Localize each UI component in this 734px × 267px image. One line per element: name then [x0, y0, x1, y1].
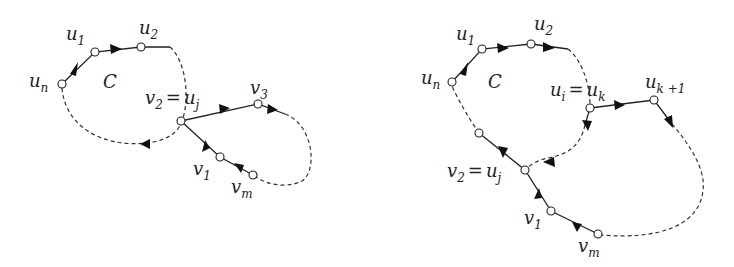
node-u1 — [91, 48, 99, 56]
label-v2-equals-uj: v2=uj — [145, 87, 200, 112]
node-v1 — [547, 207, 555, 215]
arrow-icon — [234, 163, 244, 173]
dashed-path-v3-vm — [256, 114, 311, 185]
dashed-path-un-v2 — [62, 88, 181, 144]
node-intermediate — [475, 129, 483, 137]
arrow-icon — [582, 120, 592, 131]
cycle-solid-path — [452, 44, 568, 82]
cycle-label: C — [103, 71, 117, 92]
arrow-icon — [110, 44, 122, 54]
node-un — [448, 78, 456, 86]
label-v1: v1 — [524, 207, 542, 232]
arrow-icon — [70, 62, 78, 76]
arrow-icon — [460, 62, 468, 76]
label-vm: vm — [578, 235, 600, 260]
diagram-canvas: C u1 u2 un v2=uj v3 v1 vm — [0, 0, 734, 267]
node-v2 — [521, 166, 529, 174]
node-uk1 — [650, 96, 658, 104]
label-u1: u1 — [66, 23, 85, 48]
arrow-icon — [140, 139, 150, 149]
node-v2 — [177, 117, 185, 125]
arrow-icon — [219, 104, 230, 114]
node-vm — [594, 230, 602, 238]
arrow-icon — [498, 146, 508, 158]
label-u2: u2 — [139, 17, 158, 42]
label-ui-equals-uk: ui=uk — [550, 79, 605, 104]
arrow-icon — [664, 115, 673, 128]
node-u2 — [527, 40, 535, 48]
dashed-path-node-un — [452, 86, 479, 133]
label-v3: v3 — [250, 77, 268, 102]
dashed-path-uk1-vm — [601, 124, 703, 236]
label-v1: v1 — [193, 158, 211, 183]
label-uk-plus-1: uk +1 — [645, 71, 685, 96]
node-v1 — [216, 153, 224, 161]
label-u1: u1 — [456, 23, 475, 48]
label-un: un — [421, 67, 440, 92]
arrow-icon — [497, 43, 509, 53]
node-u2 — [137, 43, 145, 51]
node-uk — [586, 104, 594, 112]
arrow-icon — [614, 100, 625, 110]
dashed-path-uk-v2 — [527, 125, 585, 168]
label-un: un — [29, 70, 48, 95]
node-u1 — [478, 45, 486, 53]
label-v2-equals-uj: v2=uj — [447, 160, 502, 185]
left-figure: C u1 u2 un v2=uj v3 v1 vm — [29, 17, 311, 201]
label-u2: u2 — [534, 13, 553, 38]
cycle-label: C — [488, 71, 502, 92]
arrow-icon — [572, 222, 582, 232]
node-un — [58, 80, 66, 88]
arrow-icon — [267, 104, 278, 114]
right-figure: C u1 u2 un ui=uk uk +1 v2=uj v1 vm — [421, 13, 703, 260]
label-vm: vm — [231, 176, 253, 201]
node-vm — [249, 171, 257, 179]
